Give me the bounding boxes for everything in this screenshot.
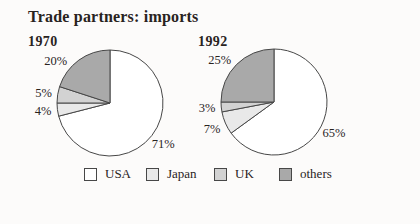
chart-year-label-1970: 1970 <box>28 34 58 49</box>
pie-1992-label-others: 25% <box>208 53 231 67</box>
legend-swatch-uk <box>214 168 227 181</box>
pie-1992-label-uk: 3% <box>199 101 216 115</box>
legend-label-uk: UK <box>235 166 254 182</box>
legend-swatch-japan <box>146 168 159 181</box>
pie-1992-label-japan: 7% <box>204 122 221 136</box>
legend-swatch-others <box>279 168 292 181</box>
legend-label-japan: Japan <box>167 166 197 182</box>
legend-label-others: others <box>300 166 332 182</box>
pie-1970-label-japan: 4% <box>35 104 52 118</box>
pie-1970-label-usa: 71% <box>152 137 175 151</box>
pies-canvas: 1970 1992 71%4%5%20% 65%7%3%25% <box>0 0 420 224</box>
chart-year-label-1992: 1992 <box>198 34 228 49</box>
legend-item-others: others <box>279 166 332 182</box>
pie-1970-label-others: 20% <box>44 54 67 68</box>
legend-label-usa: USA <box>105 166 131 182</box>
legend-item-japan: Japan <box>146 166 197 182</box>
legend-item-usa: USA <box>84 166 131 182</box>
legend-item-uk: UK <box>214 166 254 182</box>
pie-chart-1970: 71%4%5%20% <box>35 50 175 156</box>
pie-1992-label-usa: 65% <box>323 126 346 140</box>
chart-figure: Trade partners: imports 1970 1992 71%4%5… <box>0 0 420 224</box>
pie-1970-label-uk: 5% <box>35 86 52 100</box>
legend-swatch-usa <box>84 168 97 181</box>
pie-chart-1992: 65%7%3%25% <box>199 49 346 155</box>
